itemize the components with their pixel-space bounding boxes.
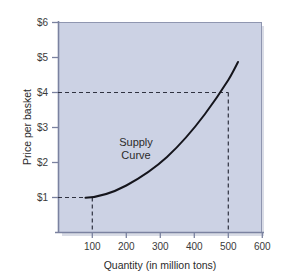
- x-tick-label-100: 100: [84, 241, 101, 252]
- y-axis-title: Price per basket: [21, 89, 33, 165]
- y-tick-label-6: $6: [37, 17, 49, 28]
- y-tick-label-4: $4: [37, 87, 49, 98]
- chart-canvas: Supply Curve $6 $5 $4 $3 $2 $1 100 200 3…: [0, 0, 286, 278]
- x-tick-label-200: 200: [118, 241, 135, 252]
- plot-area-background: [58, 22, 262, 232]
- y-tick-label-1: $1: [37, 192, 49, 203]
- y-tick-label-5: $5: [37, 52, 49, 63]
- supply-curve-label-line2: Curve: [121, 149, 150, 161]
- x-tick-label-500: 500: [220, 241, 237, 252]
- x-tick-label-400: 400: [186, 241, 203, 252]
- x-axis-title: Quantity (in million tons): [104, 259, 217, 271]
- supply-curve-label-line1: Supply: [119, 136, 153, 148]
- y-tick-label-3: $3: [37, 122, 49, 133]
- y-axis-ticks: [52, 23, 58, 198]
- x-tick-label-300: 300: [152, 241, 169, 252]
- x-tick-label-600: 600: [254, 241, 271, 252]
- y-tick-label-2: $2: [37, 157, 49, 168]
- supply-curve-figure: Supply Curve $6 $5 $4 $3 $2 $1 100 200 3…: [0, 0, 286, 278]
